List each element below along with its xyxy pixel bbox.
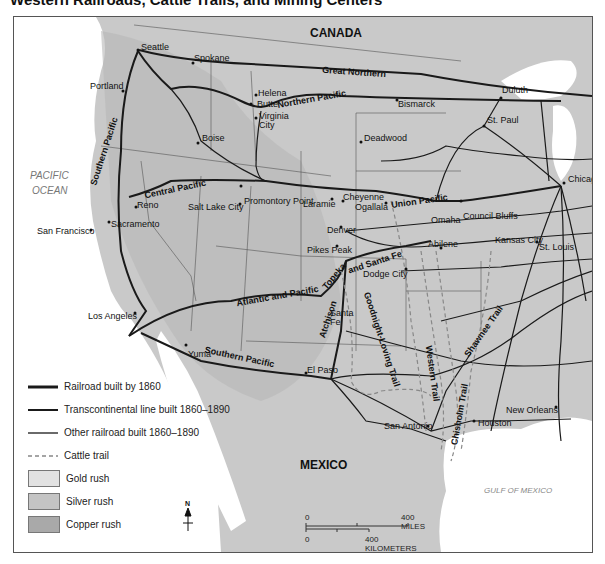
city-san-francisco: San Francisco [37,227,95,236]
scale-bar: 0 400 MILES 0 400 KILOMETERS [305,513,425,553]
city-bismarck: Bismarck [398,100,435,109]
city-sacramento: Sacramento [111,220,160,229]
city-pikes-peak: Pikes Peak [307,246,352,255]
thick-line-icon [28,384,58,390]
map-frame: CANADA MEXICO PACIFIC OCEAN GULF OF MEXI… [13,16,593,553]
label-ocean: OCEAN [32,186,68,196]
city-butte: Butte [257,100,278,109]
legend-item-railroad-1860: Railroad built by 1860 [28,375,230,398]
city-santa-fe: Santa Fe [330,309,350,327]
legend-item-transcontinental: Transcontinental line built 1860–1890 [28,398,230,421]
city-virginia-city: Virginia City [259,112,289,130]
legend-label: Cattle trail [64,450,109,461]
city-omaha: Omaha [431,216,461,225]
city-council-bluffs: Council Bluffs [463,212,518,221]
city-boise: Boise [202,134,225,143]
legend-label: Copper rush [66,519,121,530]
city-spokane: Spokane [194,54,230,63]
legend-label: Transcontinental line built 1860–1890 [64,404,230,415]
city-st-paul: St. Paul [487,116,519,125]
legend-item-other-railroad: Other railroad built 1860–1890 [28,421,230,444]
city-yuma: Yuma [188,350,211,359]
city-san-antonio: San Antonio [384,422,433,431]
label-gulf-of-mexico: GULF OF MEXICO [484,487,552,495]
city-houston: Houston [478,419,512,428]
legend-item-silver-rush: Silver rush [28,490,230,513]
label-canada: CANADA [310,27,362,39]
copper-rush-swatch [28,516,60,533]
city-abilene: Abilene [428,240,458,249]
city-dodge-city: Dodge City [363,270,408,279]
scale-miles-zero: 0 [305,513,309,522]
legend-label: Silver rush [66,496,113,507]
scale-km-label: 400 KILOMETERS [365,535,425,553]
legend-item-gold-rush: Gold rush [28,467,230,490]
medium-line-icon [28,407,58,413]
legend-item-cattle-trail: Cattle trail [28,444,230,467]
city-reno: Reno [137,201,159,210]
scale-km-zero: 0 [305,535,309,544]
city-helena: Helena [258,89,287,98]
city-deadwood: Deadwood [364,134,407,143]
city-denver: Denver [327,226,356,235]
silver-rush-swatch [28,493,60,510]
city-ogallala: Ogallala [355,203,388,212]
legend-label: Gold rush [66,473,109,484]
label-mexico: MEXICO [300,459,347,471]
city-los-angeles: Los Angeles [88,312,137,321]
city-duluth: Duluth [502,86,528,95]
gulf-of-mexico [439,417,592,552]
label-pacific: PACIFIC [30,171,69,181]
city-st-louis: St. Louis [539,243,574,252]
city-seattle: Seattle [141,43,169,52]
dashed-line-icon [28,453,58,459]
legend-label: Railroad built by 1860 [64,381,161,392]
city-portland: Portland [90,82,124,91]
legend: Railroad built by 1860 Transcontinental … [28,375,230,536]
legend-label: Other railroad built 1860–1890 [64,427,199,438]
city-laramie: Laramie [303,200,336,209]
city-chicago: Chicago [568,175,593,184]
city-kansas-city: Kansas City [495,236,543,245]
map-title: Western Railroads, Cattle Trails, and Mi… [10,0,382,8]
gold-rush-swatch [28,470,60,487]
compass-north-label: N [185,500,190,507]
city-new-orleans: New Orleans [506,406,558,415]
thin-line-icon [28,430,58,436]
city-el-paso: El Paso [307,366,338,375]
city-salt-lake-city: Salt Lake City [188,203,244,212]
city-cheyenne: Cheyenne [343,193,384,202]
lake-michigan [552,105,576,181]
legend-item-copper-rush: Copper rush [28,513,230,536]
